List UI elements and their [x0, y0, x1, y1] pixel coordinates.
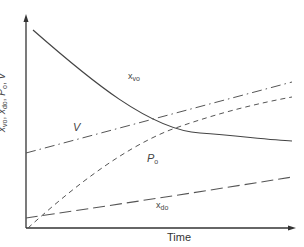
x-axis-label: Time [167, 231, 191, 243]
ylabel-o-sub: o [1, 85, 8, 89]
ylabel-x2: x [0, 109, 7, 114]
axes [26, 20, 290, 228]
label-xv0-sub: vo [133, 75, 140, 82]
label-v: V [73, 121, 80, 133]
chart-canvas [0, 0, 304, 247]
ylabel-x: x [0, 127, 7, 132]
curve-xv0 [33, 30, 292, 141]
label-xv0: xvo [128, 71, 140, 82]
x-axis-arrow-icon [288, 226, 296, 231]
label-p0: Po [147, 152, 158, 165]
ylabel-v0-sub: vo [1, 120, 8, 127]
label-xd0-sub: do [161, 204, 169, 211]
curve-xd0 [26, 177, 292, 218]
curve-v [26, 82, 292, 153]
y-axis-arrow-icon [24, 14, 29, 22]
ylabel-d0-sub: do [1, 101, 8, 109]
ylabel-v: V [0, 73, 7, 80]
label-xd0: xdo [156, 200, 168, 211]
y-axis-label: xvo, xdo, Po, V [0, 73, 8, 132]
label-p0-sub: o [154, 158, 158, 165]
ylabel-p: P [0, 89, 7, 96]
